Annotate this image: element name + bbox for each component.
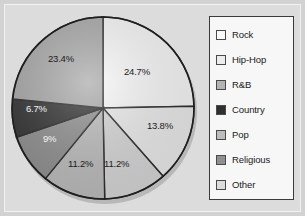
slice-label-pop: 11.2%	[68, 158, 93, 169]
slice-label-religious: 9%	[43, 133, 56, 144]
legend-swatch-other	[216, 180, 226, 190]
legend-label-religious: Religious	[232, 154, 270, 165]
legend: Rock Hip-Hop R&B Country Pop Religious	[209, 16, 294, 200]
legend-swatch-country	[216, 105, 226, 115]
legend-item-rock[interactable]: Rock	[216, 22, 293, 47]
plot-area: 24.7% 13.8% 11.2% 11.2% 9% 6.7% 23.4% Ro…	[0, 0, 305, 216]
legend-label-rock: Rock	[232, 29, 253, 40]
legend-item-religious[interactable]: Religious	[216, 147, 293, 172]
legend-label-pop: Pop	[232, 129, 249, 140]
legend-item-country[interactable]: Country	[216, 97, 293, 122]
pie-chart-figure: 24.7% 13.8% 11.2% 11.2% 9% 6.7% 23.4% Ro…	[0, 0, 305, 216]
legend-swatch-hiphop	[216, 55, 226, 65]
legend-swatch-rock	[216, 30, 226, 40]
legend-label-rnb: R&B	[232, 79, 251, 90]
legend-label-other: Other	[232, 179, 255, 190]
legend-swatch-pop	[216, 130, 226, 140]
legend-swatch-religious	[216, 155, 226, 165]
legend-item-other[interactable]: Other	[216, 172, 293, 197]
slice-label-hiphop: 13.8%	[147, 120, 173, 131]
legend-swatch-rnb	[216, 80, 226, 90]
legend-item-rnb[interactable]: R&B	[216, 72, 293, 97]
slice-label-country: 6.7%	[26, 103, 47, 114]
legend-item-hiphop[interactable]: Hip-Hop	[216, 47, 293, 72]
legend-label-hiphop: Hip-Hop	[232, 54, 266, 65]
legend-item-pop[interactable]: Pop	[216, 122, 293, 147]
slice-label-other: 23.4%	[48, 53, 74, 64]
slice-label-rock: 24.7%	[124, 66, 150, 77]
legend-label-country: Country	[232, 104, 265, 115]
slice-label-rnb: 11.2%	[104, 158, 129, 169]
